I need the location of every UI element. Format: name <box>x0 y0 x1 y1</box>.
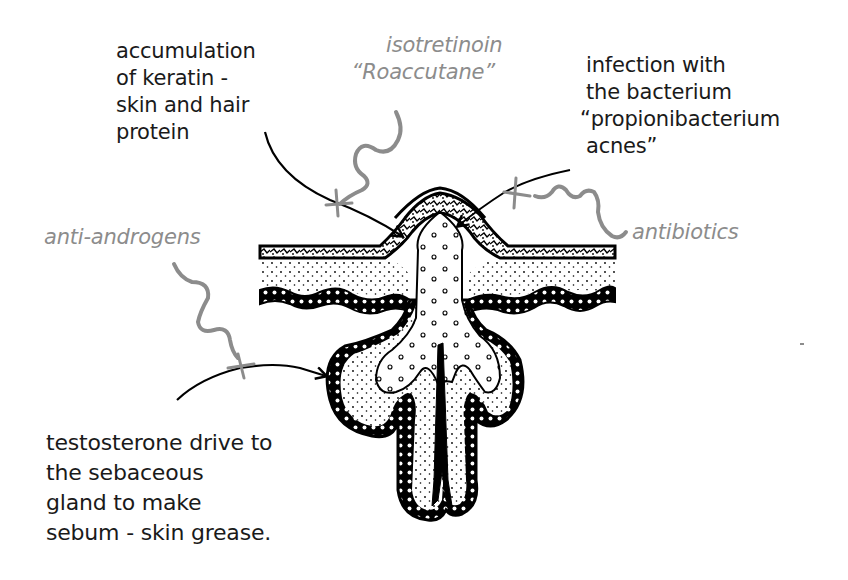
keratin-line-1: accumulation <box>116 38 256 65</box>
bacteria-line-4: acnes” <box>586 133 780 160</box>
isotretinoin-line-1: isotretinoin <box>372 32 502 59</box>
testosterone-line-2: the sebaceous <box>46 458 272 488</box>
antibiotics-line-1: antibiotics <box>632 219 739 246</box>
anti-androgens-treatment-label: anti-androgens <box>44 224 201 251</box>
isotretinoin-line-2: “Roaccutane” <box>344 59 502 86</box>
isotretinoin-squiggle <box>340 112 401 204</box>
keratin-arrow <box>265 132 402 236</box>
keratin-cause-label: accumulation of keratin - skin and hair … <box>116 38 256 146</box>
keratin-line-2: of keratin - <box>116 65 256 92</box>
keratin-line-4: protein <box>116 119 256 146</box>
antibiotics-treatment-label: antibiotics <box>632 219 739 246</box>
testosterone-arrow <box>177 365 326 400</box>
testosterone-line-3: gland to make <box>46 488 272 518</box>
anti-androgens-block-mark <box>228 354 254 378</box>
anti-androgens-squiggle <box>174 264 238 358</box>
bacteria-cause-label: infection with the bacterium “propioniba… <box>586 52 780 160</box>
bacteria-line-2: the bacterium <box>586 79 780 106</box>
antibiotics-squiggle <box>535 186 626 237</box>
testosterone-cause-label: testosterone drive to the sebaceous glan… <box>46 428 272 548</box>
anti-androgens-line-1: anti-androgens <box>44 224 201 251</box>
bacteria-line-1: infection with <box>586 52 780 79</box>
isotretinoin-block-mark <box>326 190 352 216</box>
testosterone-line-4: sebum - skin grease. <box>46 518 272 548</box>
keratin-line-3: skin and hair <box>116 92 256 119</box>
testosterone-line-1: testosterone drive to <box>46 428 272 458</box>
isotretinoin-treatment-label: isotretinoin “Roaccutane” <box>372 32 502 86</box>
bacteria-line-3: “propionibacterium <box>580 106 780 133</box>
